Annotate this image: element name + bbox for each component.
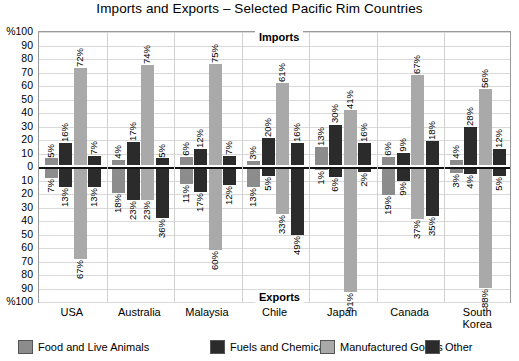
bar-import[interactable] xyxy=(276,83,289,165)
y-axis-tick: 30 xyxy=(21,202,33,212)
bar-value-label: 3% xyxy=(451,174,460,188)
bar-value-label: 28% xyxy=(465,107,474,126)
chart-legend: Food and Live AnimalsFuels and Chemicals… xyxy=(0,340,519,360)
bar-import[interactable] xyxy=(127,142,140,165)
bar-import[interactable] xyxy=(426,141,439,165)
bar-export[interactable] xyxy=(493,169,506,176)
bar-value-label: 6% xyxy=(330,178,339,192)
bar-import[interactable] xyxy=(411,75,424,165)
bar-export[interactable] xyxy=(180,169,193,184)
bar-import[interactable] xyxy=(329,125,342,166)
x-axis-labels: USAAustraliaMalaysiaChileJapanCanadaSout… xyxy=(38,306,511,340)
bar-group: 4%3%28%4%56%88%12%5% xyxy=(444,32,512,302)
bar-export[interactable] xyxy=(194,169,207,192)
bar-import[interactable] xyxy=(112,160,125,165)
bar-import[interactable] xyxy=(59,143,72,165)
bar-import[interactable] xyxy=(358,143,371,165)
bar-group: 13%1%30%6%41%91%16%2% xyxy=(309,32,377,302)
x-axis-tick: Canada xyxy=(376,306,444,318)
bar-import[interactable] xyxy=(464,127,477,165)
bar-group: 6%11%12%17%75%60%7%12% xyxy=(174,32,242,302)
bar-export[interactable] xyxy=(156,169,169,218)
legend-swatch-icon xyxy=(210,340,225,354)
bar-export[interactable] xyxy=(479,169,492,288)
bar-import[interactable] xyxy=(247,161,260,165)
bar-export[interactable] xyxy=(291,169,304,235)
bar-export[interactable] xyxy=(88,169,101,187)
bar-export[interactable] xyxy=(358,169,371,172)
bar-import[interactable] xyxy=(88,156,101,165)
bar-import[interactable] xyxy=(344,110,357,165)
bar-import[interactable] xyxy=(397,153,410,165)
bar-import[interactable] xyxy=(74,68,87,165)
bar-import[interactable] xyxy=(209,64,222,165)
bar-value-label: 1% xyxy=(316,171,325,185)
bar-import[interactable] xyxy=(45,158,58,165)
bar-value-label: 60% xyxy=(210,251,219,270)
bar-export[interactable] xyxy=(209,169,222,250)
bar-value-label: 19% xyxy=(383,196,392,215)
bar-import[interactable] xyxy=(291,143,304,165)
y-axis-tick: 90 xyxy=(21,40,33,50)
bar-value-label: 3% xyxy=(248,146,257,160)
legend-swatch-icon xyxy=(320,340,335,354)
bar-value-label: 13% xyxy=(316,127,325,146)
bar-import[interactable] xyxy=(156,158,169,165)
y-axis-tick: 70 xyxy=(21,256,33,266)
bar-export[interactable] xyxy=(411,169,424,219)
bar-export[interactable] xyxy=(45,169,58,178)
bar-value-label: 7% xyxy=(46,179,55,193)
y-axis-tick: 60 xyxy=(21,242,33,252)
bar-export[interactable] xyxy=(450,169,463,173)
bar-import[interactable] xyxy=(450,160,463,165)
bar-import[interactable] xyxy=(315,147,328,165)
bar-import[interactable] xyxy=(180,157,193,165)
bar-group: 3%13%20%5%61%33%16%49% xyxy=(242,32,310,302)
bar-export[interactable] xyxy=(141,169,154,200)
legend-item[interactable]: Food and Live Animals xyxy=(18,340,149,354)
legend-item[interactable]: Fuels and Chemicals xyxy=(210,340,333,354)
bar-export[interactable] xyxy=(247,169,260,187)
bar-import[interactable] xyxy=(493,149,506,165)
bar-value-label: 7% xyxy=(224,141,233,155)
bar-value-label: 41% xyxy=(345,90,354,109)
bar-value-label: 2% xyxy=(359,173,368,187)
bar-value-label: 11% xyxy=(181,185,190,203)
y-axis-tick: 90 xyxy=(21,283,33,293)
x-axis-tick: Australia xyxy=(106,306,174,318)
bar-value-label: 49% xyxy=(292,236,301,255)
chart-root: Imports and Exports – Selected Pacific R… xyxy=(0,0,519,361)
bar-import[interactable] xyxy=(382,157,395,165)
y-axis-tick: 80 xyxy=(21,269,33,279)
bar-value-label: 67% xyxy=(412,55,421,74)
bar-import[interactable] xyxy=(479,89,492,165)
y-axis-labels: %100908070605040302010010203040506070809… xyxy=(0,31,36,303)
bar-value-label: 67% xyxy=(75,260,84,279)
bar-export[interactable] xyxy=(112,169,125,193)
bar-import[interactable] xyxy=(262,138,275,165)
bar-value-label: 13% xyxy=(89,188,98,207)
plot-area: 5%7%16%13%72%67%7%13%4%18%17%23%74%23%5%… xyxy=(38,31,511,303)
bar-import[interactable] xyxy=(141,65,154,165)
bar-value-label: 5% xyxy=(157,144,166,158)
exports-region-label: Exports xyxy=(255,291,304,303)
bar-export[interactable] xyxy=(276,169,289,214)
legend-item[interactable]: Other xyxy=(425,340,473,354)
bar-import[interactable] xyxy=(194,149,207,165)
bar-export[interactable] xyxy=(464,169,477,174)
bar-export[interactable] xyxy=(74,169,87,259)
bar-export[interactable] xyxy=(344,169,357,292)
bar-export[interactable] xyxy=(426,169,439,216)
bar-export[interactable] xyxy=(382,169,395,195)
bar-export[interactable] xyxy=(223,169,236,185)
bar-export[interactable] xyxy=(59,169,72,187)
bar-value-label: 36% xyxy=(157,219,166,238)
bar-export[interactable] xyxy=(127,169,140,200)
bar-value-label: 18% xyxy=(427,121,436,140)
bar-export[interactable] xyxy=(329,169,342,177)
bar-export[interactable] xyxy=(397,169,410,181)
bar-import[interactable] xyxy=(223,156,236,165)
bar-value-label: 17% xyxy=(195,193,204,212)
bar-value-label: 23% xyxy=(128,201,137,220)
bar-export[interactable] xyxy=(262,169,275,176)
